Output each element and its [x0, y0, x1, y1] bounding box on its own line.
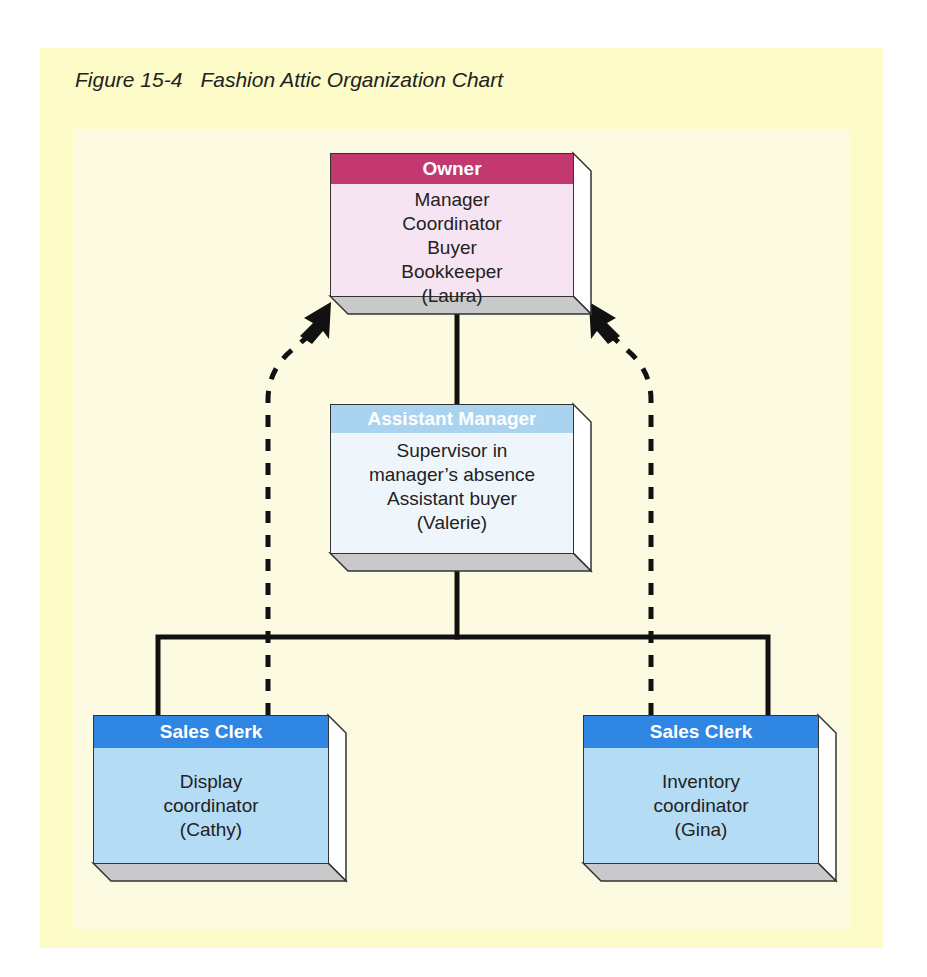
node-assistant-manager-line: manager’s absence: [331, 463, 573, 487]
node-owner-line: Buyer: [331, 236, 573, 260]
node-owner-line: Coordinator: [331, 212, 573, 236]
node-sales-clerk-right-line: (Gina): [584, 818, 818, 842]
node-sales-clerk-left-title: Sales Clerk: [94, 716, 328, 748]
arrowhead-right-icon: [589, 302, 620, 344]
node-sales-clerk-left-line: coordinator: [94, 794, 328, 818]
node-sales-clerk-left-line: Display: [94, 770, 328, 794]
node-assistant-manager-title: Assistant Manager: [331, 405, 573, 433]
node-owner-line: (Laura): [331, 284, 573, 308]
node-sales-clerk-right: Sales Clerk Inventory coordinator (Gina): [583, 715, 836, 881]
node-sales-clerk-left-line: (Cathy): [94, 818, 328, 842]
node-assistant-manager-line: Supervisor in: [331, 439, 573, 463]
dashed-line-right-clerk-to-owner: [603, 328, 651, 715]
node-assistant-manager-line: (Valerie): [331, 511, 573, 535]
node-owner-body: Manager Coordinator Buyer Bookkeeper (La…: [331, 184, 573, 308]
node-sales-clerk-left-body: Display coordinator (Cathy): [94, 748, 328, 863]
node-assistant-manager-line: Assistant buyer: [331, 487, 573, 511]
node-sales-clerk-right-line: Inventory: [584, 770, 818, 794]
node-sales-clerk-right-title: Sales Clerk: [584, 716, 818, 748]
node-sales-clerk-right-body: Inventory coordinator (Gina): [584, 748, 818, 863]
node-owner-line: Bookkeeper: [331, 260, 573, 284]
node-owner: Owner Manager Coordinator Buyer Bookkeep…: [330, 153, 591, 314]
node-assistant-manager: Assistant Manager Supervisor in manager’…: [330, 404, 591, 571]
node-sales-clerk-right-line: coordinator: [584, 794, 818, 818]
node-assistant-manager-body: Supervisor in manager’s absence Assistan…: [331, 433, 573, 553]
node-owner-line: Manager: [331, 188, 573, 212]
node-owner-title: Owner: [331, 154, 573, 184]
dashed-line-left-clerk-to-owner: [268, 328, 318, 715]
node-sales-clerk-left: Sales Clerk Display coordinator (Cathy): [93, 715, 346, 881]
connector-horizontal-bar: [158, 637, 768, 715]
arrowhead-left-icon: [300, 302, 331, 344]
